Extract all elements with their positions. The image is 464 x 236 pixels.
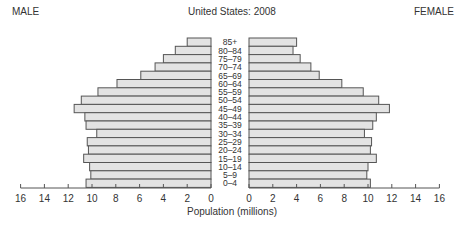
female-bar <box>249 121 373 129</box>
female-bar <box>249 154 376 162</box>
x-tick-label: 10 <box>362 193 374 204</box>
x-tick-label: 8 <box>113 193 119 204</box>
female-bar <box>249 80 342 88</box>
x-tick-label: 14 <box>410 193 422 204</box>
x-tick-label: 0 <box>208 193 214 204</box>
male-bar <box>97 129 211 137</box>
female-bar <box>249 129 364 137</box>
x-axis-title: Population (millions) <box>0 206 464 217</box>
female-bar <box>249 179 370 187</box>
female-bar <box>249 146 370 154</box>
male-bar <box>141 71 211 79</box>
population-pyramid-chart: 85+80–8475–7970–7465–6960–6455–5950–5445… <box>0 0 464 236</box>
male-bar <box>87 138 211 146</box>
male-bar <box>98 88 211 96</box>
male-bar <box>88 146 211 154</box>
x-tick-label: 12 <box>63 193 75 204</box>
male-bar <box>163 55 211 63</box>
male-bar <box>175 46 211 54</box>
male-bar <box>90 163 211 171</box>
x-tick-label: 10 <box>86 193 98 204</box>
x-tick-label: 8 <box>341 193 347 204</box>
x-tick-label: 6 <box>137 193 143 204</box>
female-bars <box>249 38 389 187</box>
male-bar <box>81 96 211 104</box>
female-bar <box>249 46 293 54</box>
female-bar <box>249 163 368 171</box>
female-bar <box>249 38 297 46</box>
x-tick-label: 16 <box>434 193 446 204</box>
female-bar <box>249 138 372 146</box>
x-tick-label: 4 <box>161 193 167 204</box>
age-group-label: 0–4 <box>223 178 237 188</box>
male-bar <box>155 63 211 71</box>
x-tick-label: 6 <box>318 193 324 204</box>
male-bar <box>85 113 211 121</box>
x-tick-label: 2 <box>270 193 276 204</box>
x-tick-label: 4 <box>294 193 300 204</box>
female-bar <box>249 104 389 112</box>
male-bar <box>86 121 211 129</box>
male-bars <box>74 38 211 187</box>
male-bar <box>187 38 211 46</box>
male-bar <box>74 104 211 112</box>
female-bar <box>249 88 363 96</box>
male-bar <box>117 80 211 88</box>
age-group-labels: 85+80–8475–7970–7465–6960–6455–5950–5445… <box>218 37 242 188</box>
x-tick-label: 14 <box>39 193 51 204</box>
male-bar <box>91 171 211 179</box>
female-bar <box>249 63 311 71</box>
female-bar <box>249 96 379 104</box>
female-bar <box>249 113 376 121</box>
male-bar <box>84 154 211 162</box>
x-tick-label: 2 <box>184 193 190 204</box>
female-bar <box>249 171 367 179</box>
x-tick-label: 16 <box>15 193 27 204</box>
female-bar <box>249 55 300 63</box>
male-bar <box>86 179 211 187</box>
x-tick-label: 12 <box>386 193 398 204</box>
female-bar <box>249 71 319 79</box>
x-tick-label: 0 <box>246 193 252 204</box>
